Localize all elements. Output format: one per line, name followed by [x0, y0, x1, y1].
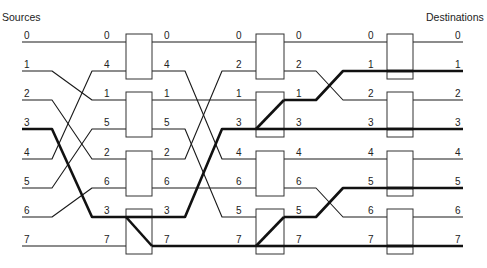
stage1-input-label-0: 0	[104, 30, 110, 41]
wire-source-4	[22, 71, 126, 159]
stage3-input-label-0: 0	[368, 30, 374, 41]
stage2-output-label-7: 7	[296, 234, 302, 245]
stage2-input-label-5: 5	[236, 205, 242, 216]
stage1-input-label-4: 4	[104, 59, 110, 70]
switch-box-stage2-0	[256, 34, 284, 79]
omega-network-diagram: Sources Destinations 0011223344556677004…	[0, 0, 487, 268]
stage2-input-label-0: 0	[236, 30, 242, 41]
stage1-output-label-5: 5	[164, 117, 170, 128]
stage1-output-label-3: 3	[164, 205, 170, 216]
switch-box-stage1-1	[126, 92, 152, 137]
stage1-output-label-4: 4	[164, 59, 170, 70]
stage1-output-label-1: 1	[164, 88, 170, 99]
stage3-input-label-5: 5	[368, 176, 374, 187]
stage2-output-label-5: 5	[296, 205, 302, 216]
wire-stage1-out-3	[152, 129, 256, 217]
wire-source-1	[22, 71, 126, 100]
stage2-input-label-1: 1	[236, 88, 242, 99]
stage2-input-label-4: 4	[236, 147, 242, 158]
switch-box-stage2-2	[256, 151, 284, 196]
source-label-4: 4	[24, 147, 30, 158]
stage2-input-label-2: 2	[236, 59, 242, 70]
stage3-input-label-6: 6	[368, 205, 374, 216]
stage2-input-label-7: 7	[236, 234, 242, 245]
destination-label-5: 5	[455, 176, 461, 187]
stage3-input-label-1: 1	[368, 59, 374, 70]
destination-label-7: 7	[455, 234, 461, 245]
source-label-6: 6	[24, 205, 30, 216]
destination-label-3: 3	[455, 117, 461, 128]
destination-label-6: 6	[455, 205, 461, 216]
stage1-input-label-1: 1	[104, 88, 110, 99]
source-label-1: 1	[24, 59, 30, 70]
source-label-2: 2	[24, 88, 30, 99]
stage1-output-label-2: 2	[164, 147, 170, 158]
destination-label-2: 2	[455, 88, 461, 99]
stage3-input-label-2: 2	[368, 88, 374, 99]
destination-label-1: 1	[455, 59, 461, 70]
stage2-output-label-0: 0	[296, 30, 302, 41]
source-label-0: 0	[24, 30, 30, 41]
stage2-output-label-3: 3	[296, 117, 302, 128]
stage2-output-label-2: 2	[296, 59, 302, 70]
wire-stage1-out-2	[152, 71, 256, 159]
destination-label-0: 0	[455, 30, 461, 41]
wire-source-6	[22, 188, 126, 217]
stage3-input-label-3: 3	[368, 117, 374, 128]
stage3-input-label-7: 7	[368, 234, 374, 245]
switch-box-stage1-2	[126, 151, 152, 196]
sources-title: Sources	[2, 11, 41, 23]
source-label-3: 3	[24, 117, 30, 128]
stage3-input-label-4: 4	[368, 147, 374, 158]
switch-box-stage1-0	[126, 34, 152, 79]
stage1-output-label-6: 6	[164, 176, 170, 187]
destinations-title: Destinations	[426, 11, 484, 23]
destination-label-4: 4	[455, 147, 461, 158]
stage1-output-label-7: 7	[164, 234, 170, 245]
stage1-input-label-6: 6	[104, 176, 110, 187]
stage2-output-label-4: 4	[296, 147, 302, 158]
stage1-input-label-7: 7	[104, 234, 110, 245]
stage2-output-label-1: 1	[296, 88, 302, 99]
stage2-input-label-3: 3	[236, 117, 242, 128]
stage1-input-label-3: 3	[104, 205, 110, 216]
wire-source-3	[22, 129, 126, 217]
stage1-input-label-5: 5	[104, 117, 110, 128]
stage1-input-label-2: 2	[104, 147, 110, 158]
stage2-output-label-6: 6	[296, 176, 302, 187]
stage2-input-label-6: 6	[236, 176, 242, 187]
source-label-7: 7	[24, 234, 30, 245]
source-label-5: 5	[24, 176, 30, 187]
stage1-output-label-0: 0	[164, 30, 170, 41]
